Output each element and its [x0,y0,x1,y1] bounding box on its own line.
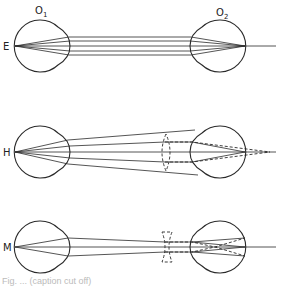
panel-label-m: M [3,242,12,253]
panel-emmetropia: E O1 O2 [3,5,276,72]
convex-lens [162,134,170,171]
panel-myopia: M [3,221,276,273]
figure-caption: Fig. ... (caption cut off) [2,276,91,286]
panel-label-h: H [3,147,11,158]
diverging-rays [15,130,276,175]
eye-label-o2: O2 [216,7,228,21]
panel-label-e: E [3,41,9,52]
panel-hypermetropia: H [3,126,276,178]
parallel-rays [15,37,276,55]
eye-label-o1: O1 [35,5,47,19]
converging-rays [15,238,276,256]
